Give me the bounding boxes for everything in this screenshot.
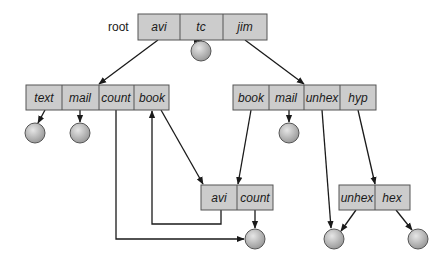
file-node-text [25, 123, 45, 143]
file-node-tc [191, 41, 211, 61]
dir-entry-count: count [101, 91, 131, 105]
file-nodes [25, 41, 428, 249]
directory-root: avi tc jim [138, 14, 267, 40]
dir-entry-hyp: hyp [348, 91, 368, 105]
dir-entry-hex: hex [382, 191, 402, 205]
dir-entry-unhex: unhex [341, 191, 375, 205]
edge-book-shared-dir [161, 110, 203, 184]
dir-entry-unhex: unhex [306, 91, 340, 105]
dir-entry-book: book [238, 91, 265, 105]
directory-jim: book mail unhex hyp [233, 85, 376, 110]
dir-entry-jim: jim [235, 20, 252, 34]
dir-entry-text: text [34, 91, 54, 105]
file-node-mail-avi [70, 123, 90, 143]
file-node-count-shared [245, 229, 265, 249]
edge-root-avi [99, 40, 158, 84]
directory-avi: text mail count book [26, 85, 169, 110]
dir-entry-avi: avi [211, 191, 227, 205]
file-node-mail-jim [279, 123, 299, 143]
dir-entry-mail: mail [275, 91, 297, 105]
dir-entry-count: count [240, 191, 270, 205]
edge-root-jim [245, 40, 304, 84]
file-node-hex [408, 229, 428, 249]
dir-entry-book: book [139, 91, 166, 105]
edge-hyp-dir [358, 110, 375, 184]
edge-count-shared-file [116, 110, 244, 239]
edge-unhex-file [322, 110, 331, 228]
dir-entry-tc: tc [196, 20, 205, 34]
root-label: root [108, 20, 129, 34]
directory-shared: avi count [201, 185, 273, 210]
edge-hyp-unhex-file [341, 210, 356, 231]
dir-entry-mail: mail [69, 91, 91, 105]
edge-hyp-hex-file [396, 210, 412, 230]
dir-entry-avi: avi [151, 20, 167, 34]
edge-text-file [38, 110, 45, 123]
file-node-unhex-shared [324, 229, 344, 249]
edge-jimbook-shared-dir [238, 110, 251, 184]
directory-hyp: unhex hex [339, 185, 410, 210]
directory-graph-diagram: root avi tc jim text mail count book boo… [0, 0, 447, 264]
